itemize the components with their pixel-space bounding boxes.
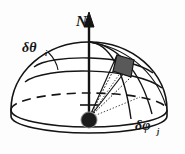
origin-dot — [82, 113, 96, 127]
hemisphere-diagram: N δθ i δφ j — [0, 0, 185, 154]
solid-angle-figure: N δθ i δφ j — [0, 0, 185, 154]
axis-label-N: N — [75, 13, 88, 29]
phi-label-subscript: j — [155, 127, 160, 136]
phi-label: δφ — [135, 118, 150, 133]
theta-label: δθ — [22, 40, 37, 55]
